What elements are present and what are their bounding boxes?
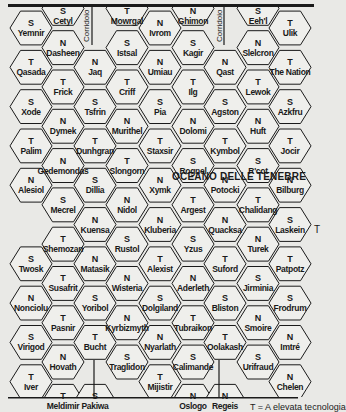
hex-label: NSmoire [244,313,271,333]
hex-type: N [179,116,206,126]
hex-name: Staxsir [147,146,173,156]
hex-type: S [86,175,105,185]
hex-name: Lewok [246,87,271,97]
hex-label: TPatpotz [276,254,305,274]
hex-label: STsfrin [84,97,105,117]
hex-type: T [212,254,238,264]
hex-type: T [174,313,212,323]
hex-type: T [188,77,197,87]
hex-name: Oslogo [179,401,206,411]
hex-type: T [283,18,297,28]
hex-label: NQast [216,57,234,77]
hex-type: N [247,234,268,244]
hex-type: T [111,6,143,16]
hex-name: Kagir [183,48,203,58]
hex-type: S [243,352,274,362]
hex-name: Oolakash [207,342,243,352]
hex-name: Twosk [19,264,43,274]
hex-label: TDunhgran [76,136,114,156]
hex-type: T [51,313,75,323]
hex-type: N [179,391,206,401]
hex-type: S [21,97,41,107]
hex-label: SYzus [184,234,203,254]
hex-type: N [49,352,76,362]
hex-label: TIlg [188,77,197,97]
hex-name: Argest [180,205,205,215]
legend: T = A elevata tecnologia [250,402,346,412]
hex-type: N [18,175,44,185]
hex-type: S [142,293,178,303]
hex-type: T [84,332,107,342]
hex-label: TBucht [84,332,107,352]
hex-label: NAderleth [177,273,209,293]
hex-type: S [275,215,305,225]
hex-label: SXode [21,97,41,117]
hex-name: Eeh'l [249,16,267,26]
hex-type: T [239,195,277,205]
hex-label: SMecrel [50,195,75,215]
hex-name: Tubraikon [174,323,212,333]
hex-name: Calimande [173,362,213,372]
hex-type: S [278,97,303,107]
hex-label: NNyarlath [144,332,176,352]
hex-label: NDymek [50,116,76,136]
hex-label: NGedemondas [38,156,89,176]
hex-label: SEeh'l [249,6,267,26]
hex-label: STraglidon [109,352,145,372]
hex-label: NHovath [49,352,76,372]
hex-type: N [177,273,209,283]
hex-label: TThe Nation [270,57,311,77]
hex-type: N [105,313,148,323]
hex-name: Urifraud [243,362,274,372]
hex-type: T [43,234,83,244]
hex-type: S [212,293,239,303]
hex-label: NMurithel [112,116,143,136]
hex-name: Frodrum [274,303,307,313]
hex-label: NNidol [117,195,137,215]
hex-type: S [82,293,109,303]
hex-name: Virigod [17,342,44,352]
hex-type: S [109,352,145,362]
hex-type: N [149,175,170,185]
hex-name: Ivrom [149,28,171,38]
hex-type: S [274,293,307,303]
hex-name: Frick [54,87,73,97]
hex-label: NUmiau [148,57,172,77]
hex-type: T [54,77,73,87]
hex-label: NKluberia [144,215,176,235]
hex-name: Pasnir [51,323,75,333]
hex-name: Dymek [50,126,76,136]
hex-label: SRustol [115,234,140,254]
hex-name: Smoire [244,323,271,333]
hex-type: N [216,57,234,67]
hex-label: TIver [24,372,38,392]
hex-name: Meldimir [47,401,80,411]
hex-type: N [80,254,109,264]
hex-label: NSlelcron [242,38,273,58]
hex-label: SIstsal [117,38,137,58]
hex-name: Nonciolu [14,303,48,313]
hex-label: TStaxsir [147,136,173,156]
hex-name: Xymk [149,185,170,195]
hex-name: Jaq [88,67,102,77]
hex-name: Dunhgran [76,146,114,156]
hex-label: TQasada [17,57,46,77]
hex-label: TSuford [212,254,238,274]
hex-label: TUlik [283,18,297,38]
hex-name: Criff [119,87,135,97]
hex-label: TPalim [20,136,41,156]
hex-name: Azkfru [278,107,303,117]
hex-type: N [88,57,102,67]
hex-name: Traglidon [109,362,145,372]
hex-type: N [81,215,110,225]
hex-type: N [144,332,176,342]
corridor-label-right: Corridoio [215,10,224,42]
hex-type: T [17,57,46,67]
hex-type: T [147,136,173,146]
hex-label: SYemnir [18,18,45,38]
hex-type: S [53,6,72,16]
hex-type: N [149,18,171,28]
hex-label: NTurek [247,234,268,254]
hex-type: S [84,97,105,107]
hex-type: N [117,195,137,205]
